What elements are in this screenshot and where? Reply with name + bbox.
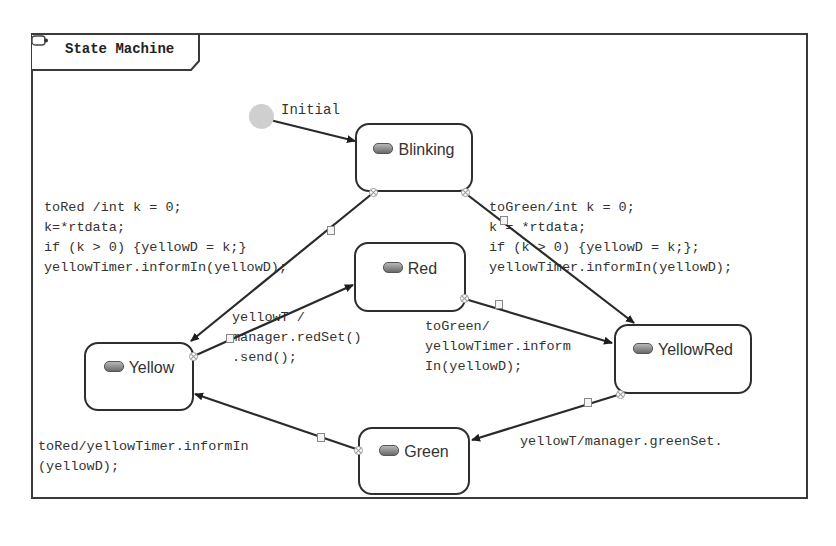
edge-green-yellow[interactable] [195,394,359,450]
state-icon [633,343,653,354]
transition-marker-icon[interactable] [495,300,503,309]
state-yellow[interactable]: Yellow [84,342,194,411]
state-icon [104,361,124,372]
edge-red-yellowred[interactable] [465,299,612,343]
transition-marker-icon[interactable] [226,334,234,343]
port-icon[interactable] [369,188,378,197]
transition-marker-icon[interactable] [317,433,325,442]
transition-marker-icon[interactable] [584,398,592,407]
port-icon[interactable] [461,188,470,197]
port-icon[interactable] [460,294,469,303]
state-icon [379,445,399,456]
transition-marker-icon[interactable] [500,216,508,225]
edge-blinking-yellowred[interactable] [465,193,634,323]
state-label: YellowRed [658,341,733,358]
state-icon [383,262,403,273]
port-icon[interactable] [189,352,198,361]
edge-yellowred-green[interactable] [472,394,621,440]
state-machine-title: State Machine [65,41,174,57]
state-green[interactable]: Green [358,427,470,495]
edge-blinking-yellow[interactable] [191,193,373,341]
state-label: Green [404,443,448,460]
edge-initial-blinking[interactable] [270,120,355,141]
state-blinking[interactable]: Blinking [355,123,473,192]
initial-label: Initial [281,102,340,118]
state-label: Yellow [129,359,175,376]
state-label: Red [408,260,437,277]
port-icon[interactable] [616,390,625,399]
state-machine-icon [31,33,49,47]
state-yellowred[interactable]: YellowRed [614,324,752,394]
port-icon[interactable] [354,446,363,455]
state-icon [373,143,393,154]
initial-node[interactable] [249,104,274,129]
transition-marker-icon[interactable] [327,226,335,235]
state-machine-title-tab: State Machine [31,33,201,71]
state-red[interactable]: Red [354,242,466,312]
state-label: Blinking [398,141,454,158]
